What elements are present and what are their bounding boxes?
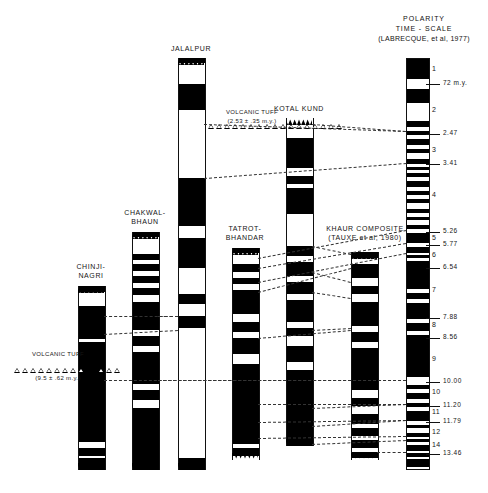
header-line-2: TIME - SCALE [368,24,480,34]
chron-number-label: 4 [432,191,436,198]
correlation-tie-line [258,436,406,439]
polarity-band-normal [407,59,429,79]
section-name-line: BHANDAR [200,233,290,242]
polarity-band-normal [407,425,429,428]
polarity-band-normal [287,300,313,322]
section-name-line: JALALPUR [146,44,236,53]
age-tick-mark [426,268,440,269]
polarity-band-normal [179,294,205,304]
polarity-band-normal [233,290,259,314]
chron-number-label: 8 [432,321,436,328]
polarity-band-normal [287,176,313,184]
age-tick-mark [426,164,440,165]
age-tick-label: 11.79 [443,417,461,424]
age-tick-label: 11.20 [443,401,461,408]
age-tick-mark [426,422,440,423]
polarity-band-normal [287,370,313,446]
age-tick-label: 2.47 [443,129,458,136]
polarity-band-normal [352,302,378,326]
section-column-tatrot-bhandar [232,248,258,460]
polarity-band-normal [287,138,313,168]
polarity-band-normal [79,306,105,339]
age-tick-label: 5.77 [443,240,458,247]
tuff-marker-icon [98,368,104,373]
polarity-timescale-column [406,58,428,468]
age-tick-mark [426,245,440,246]
age-tick-label: 8.56 [443,333,458,340]
section-bottom-serration-icon [351,453,377,460]
tuff-marker-icon [114,368,120,373]
polarity-band-normal [133,288,159,295]
correlation-tie-line [258,243,406,269]
chron-number-label: 3 [432,146,436,153]
polarity-band-normal [233,338,259,354]
polarity-band-normal [407,255,429,258]
polarity-band-normal [407,181,429,187]
polarity-band-normal [79,325,105,333]
section-name-label-tatrot-bhandar: TATROT-BHANDAR [200,224,290,242]
polarity-band-normal [407,411,429,421]
age-tick-mark [426,454,440,455]
age-tick-label: 5.26 [443,227,458,234]
tuff-marker-icon [38,368,44,373]
age-tick-mark [426,318,440,319]
polarity-band-normal [407,149,429,153]
section-column-body [232,248,260,460]
section-name-line: NAGRI [46,271,136,280]
polarity-band-normal [407,139,429,145]
polarity-band-normal [407,385,429,389]
correlation-tie-line [377,452,406,453]
volcanic-tuff-title: VOLCANIC TUFF [212,108,292,117]
section-name-label-chinji-nagri: CHINJI-NAGRI [46,262,136,280]
chron-number-label: 14 [432,441,441,448]
section-bottom-serration-icon [286,439,312,446]
polarity-band-normal [133,254,159,260]
polarity-band-normal [179,238,205,268]
polarity-band-normal [352,348,378,390]
age-tick-mark [426,338,440,339]
polarity-band-normal [133,408,159,470]
polarity-band-normal [352,428,378,436]
polarity-timescale-body [406,58,430,470]
tuff-marker-icon [70,368,76,373]
polarity-band-normal [407,303,429,319]
section-name-line: CHAKWAL- [100,208,190,217]
tuff-marker-icon [22,368,28,373]
section-top-serration-icon [351,252,377,259]
section-name-line: TATROT- [200,224,290,233]
age-tick-mark [426,382,440,383]
polarity-band-normal [407,293,429,299]
polarity-band-normal [407,199,429,203]
polarity-band-normal [179,84,205,110]
correlation-tie-line [158,316,178,317]
chron-number-label: 12 [432,428,441,435]
polarity-band-normal [352,286,378,294]
tuff-marker-icon [14,368,20,373]
tuff-marker-icon [46,368,52,373]
polarity-band-normal [352,332,378,342]
volcanic-tuff-title: VOLCANIC TUFF [18,350,98,359]
polarity-band-normal [407,459,429,467]
polarity-band-normal [287,188,313,214]
polarity-band-normal [407,209,429,213]
polarity-band-normal [133,390,159,400]
polarity-band-normal [287,346,313,362]
tuff-marker-icon [106,368,112,373]
polarity-band-normal [407,393,429,399]
polarity-band-normal [233,322,259,332]
correlation-tie-line [312,292,351,299]
tuff-marker-icon [54,368,60,373]
polarity-band-normal [407,191,429,195]
section-column-khaur-composite [351,252,377,460]
volcanic-tuff-label: VOLCANIC TUFF [18,350,98,359]
section-top-serration-icon [78,286,104,293]
section-column-body [132,232,160,470]
correlation-tie-line [312,246,351,255]
polarity-band-normal [133,264,159,271]
polarity-band-normal [233,264,259,272]
polarity-band-normal [407,335,429,377]
tuff-marker-icon [62,368,68,373]
section-bottom-serration-icon [178,463,204,470]
polarity-band-normal [407,445,429,451]
section-name-line: BHAUN [100,217,190,226]
